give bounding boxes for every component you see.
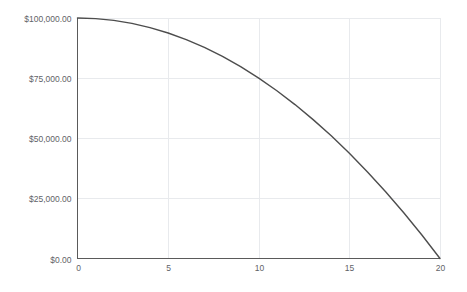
y-tick-label: $50,000.00 (29, 134, 72, 144)
x-tick-label: 20 (436, 263, 446, 273)
x-tick-label: 15 (345, 263, 355, 273)
y-tick-label: $100,000.00 (24, 14, 72, 24)
x-tick-labels: 05101520 (76, 263, 445, 273)
y-tick-label: $0.00 (50, 255, 72, 265)
x-tick-label: 10 (255, 263, 265, 273)
y-tick-label: $25,000.00 (29, 194, 72, 204)
line-chart-plot: $0.00$25,000.00$50,000.00$75,000.00$100,… (0, 0, 467, 292)
y-tick-label: $75,000.00 (29, 74, 72, 84)
chart-figure: $0.00$25,000.00$50,000.00$75,000.00$100,… (0, 0, 467, 292)
horizontal-gridlines (78, 19, 441, 199)
x-tick-label: 5 (166, 263, 171, 273)
y-tick-labels: $0.00$25,000.00$50,000.00$75,000.00$100,… (24, 14, 72, 265)
x-tick-label: 0 (76, 263, 81, 273)
